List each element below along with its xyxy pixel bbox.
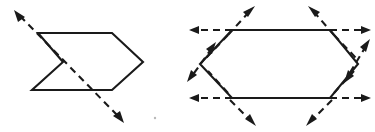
scan-speck — [154, 117, 156, 119]
geometry-figure-canvas — [0, 0, 375, 132]
